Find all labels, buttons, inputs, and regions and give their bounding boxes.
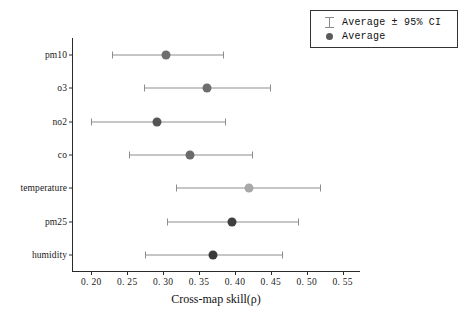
error-bar-cap-low [176, 185, 177, 192]
error-bar-cap-high [252, 152, 253, 159]
y-tick-mark [69, 54, 73, 55]
error-bar-cap-low [167, 218, 168, 225]
x-tick-label: 0. 25 [117, 277, 138, 287]
x-tick-label: 0. 40 [225, 277, 246, 287]
error-bar-cap-low [145, 252, 146, 259]
y-tick-label-temperature: temperature [21, 183, 67, 193]
chart-legend: Average ± 95% CI Average [310, 10, 458, 48]
x-tick-mark [91, 271, 92, 275]
average-marker-temperature[interactable] [244, 184, 253, 193]
plot-area: 0. 200. 250. 300. 350. 400. 450. 500. 55… [72, 38, 360, 272]
x-axis-label: Cross-map skill(ρ) [72, 292, 360, 307]
x-tick-mark [163, 271, 164, 275]
figure-canvas: 0. 200. 250. 300. 350. 400. 450. 500. 55… [0, 0, 469, 322]
legend-entry-average-ci: Average ± 95% CI [316, 15, 452, 29]
error-bar-cap-high [223, 51, 224, 58]
average-marker-humidity[interactable] [208, 251, 217, 260]
x-tick-label: 0. 50 [297, 277, 318, 287]
y-tick-label-no2: no2 [52, 117, 67, 127]
legend-label-average-ci: Average ± 95% CI [342, 17, 441, 28]
x-tick-mark [127, 271, 128, 275]
x-tick-label: 0. 35 [189, 277, 210, 287]
dot-icon [316, 33, 342, 40]
legend-entry-average: Average [316, 29, 452, 43]
error-bar-cap-high [298, 218, 299, 225]
y-tick-mark [69, 155, 73, 156]
y-tick-label-pm25: pm25 [45, 217, 67, 227]
x-tick-label: 0. 55 [332, 277, 353, 287]
average-marker-pm25[interactable] [228, 217, 237, 226]
y-tick-label-pm10: pm10 [45, 50, 67, 60]
y-tick-mark [69, 121, 73, 122]
error-bar-cap-low [144, 85, 145, 92]
y-tick-mark [69, 88, 73, 89]
x-tick-mark [199, 271, 200, 275]
y-tick-mark [69, 221, 73, 222]
x-tick-mark [271, 271, 272, 275]
legend-label-average: Average [342, 31, 385, 42]
x-tick-mark [307, 271, 308, 275]
y-tick-label-o3: o3 [57, 83, 67, 93]
error-bar-cap-low [129, 152, 130, 159]
x-tick-label: 0. 20 [81, 277, 102, 287]
x-tick-mark [235, 271, 236, 275]
error-bar-cap-high [270, 85, 271, 92]
average-marker-pm10[interactable] [162, 50, 171, 59]
x-tick-mark [343, 271, 344, 275]
error-bar-cap-high [225, 118, 226, 125]
average-marker-co[interactable] [186, 151, 195, 160]
y-tick-mark [69, 255, 73, 256]
y-tick-label-humidity: humidity [32, 250, 67, 260]
x-tick-label: 0. 45 [261, 277, 282, 287]
average-marker-no2[interactable] [152, 117, 161, 126]
y-tick-label-co: co [58, 150, 67, 160]
error-bar-cap-low [112, 51, 113, 58]
average-marker-o3[interactable] [202, 84, 211, 93]
error-bar-cap-low [91, 118, 92, 125]
y-tick-mark [69, 188, 73, 189]
x-tick-label: 0. 30 [153, 277, 174, 287]
errorbar-icon [316, 17, 342, 28]
error-bar-cap-high [320, 185, 321, 192]
error-bar-cap-high [282, 252, 283, 259]
